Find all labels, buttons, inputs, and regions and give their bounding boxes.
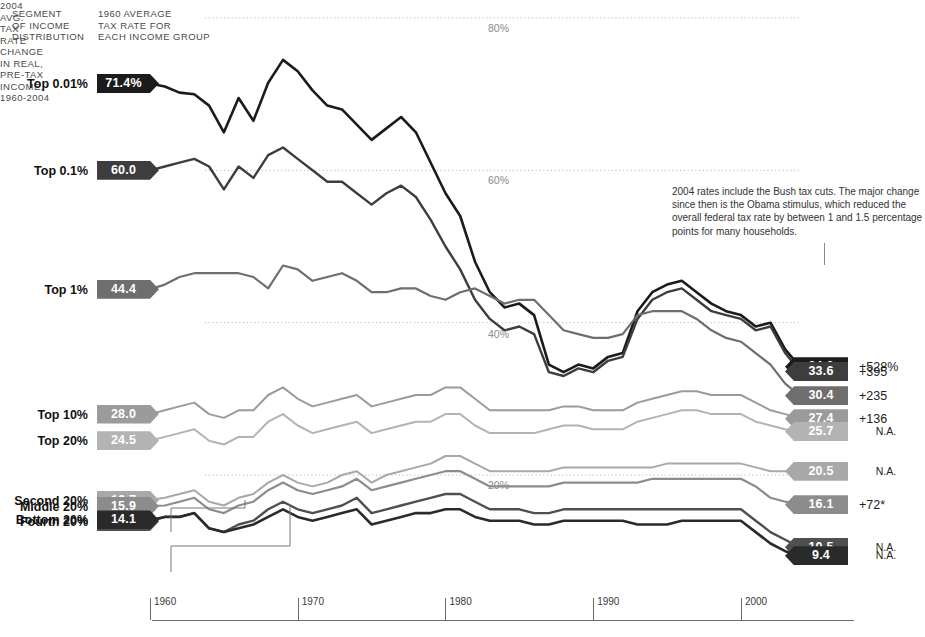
chart-plot: [0, 0, 925, 637]
series-line-middle-20: [150, 471, 800, 513]
x-tick-1960: [150, 598, 151, 620]
change-income-top-0-1: +395: [859, 365, 919, 379]
series-label-top-1: Top 1%: [0, 283, 88, 297]
badge-2004-rate-top-1: 30.4: [785, 386, 848, 405]
badge-1960-rate-top-10: 28.0: [97, 405, 159, 424]
change-income-top-1: +235: [859, 389, 919, 403]
series-label-top-20: Top 20%: [0, 434, 88, 448]
change-income-bottom-20: N.A.: [856, 549, 916, 561]
gridline-label-20: 20%: [488, 479, 509, 491]
x-tick-label-1990: 1990: [597, 596, 619, 607]
series-line-bottom-20: [150, 509, 800, 555]
series-line-group: [150, 60, 800, 556]
x-tick-label-1960: 1960: [154, 596, 176, 607]
gridline-label-40: 40%: [488, 328, 509, 340]
series-line-top-20: [150, 410, 800, 444]
series-line-second-20: [150, 456, 800, 506]
series-line-top-10: [150, 387, 800, 418]
change-income-second-20: N.A.: [856, 465, 916, 477]
x-axis-line: [152, 620, 854, 621]
gridline-label-80: 80%: [488, 22, 509, 34]
x-tick-label-1970: 1970: [302, 596, 324, 607]
series-label-top-0-01: Top 0.01%: [0, 77, 88, 91]
badge-2004-rate-top-0-1: 33.6: [785, 362, 848, 381]
x-tick-1970: [298, 598, 299, 620]
badge-1960-rate-top-20: 24.5: [97, 431, 159, 450]
series-label-middle-20: Middle 20%: [0, 500, 88, 514]
x-tick-label-2000: 2000: [745, 596, 767, 607]
gridline-group: [205, 18, 800, 475]
badge-1960-rate-top-0-01: 71.4%: [97, 74, 159, 93]
gridline-label-60: 60%: [488, 174, 509, 186]
change-income-top-20: N.A.: [856, 425, 916, 437]
series-line-top-1: [150, 266, 800, 396]
badge-2004-rate-middle-20: 16.1: [785, 495, 848, 514]
series-label-top-10: Top 10%: [0, 408, 88, 422]
badge-2004-rate-second-20: 20.5: [785, 462, 848, 481]
series-label-top-0-1: Top 0.1%: [0, 164, 88, 178]
change-income-middle-20: +72*: [859, 498, 919, 512]
change-income-top-10: +136: [859, 412, 919, 426]
x-tick-1980: [445, 598, 446, 620]
badge-1960-rate-top-1: 44.4: [97, 280, 159, 299]
x-tick-2000: [741, 598, 742, 620]
series-label-bottom-20: Bottom 20%: [0, 513, 88, 527]
badge-1960-rate-bottom-20: 14.1: [97, 510, 159, 529]
badge-2004-rate-bottom-20: 9.4: [785, 546, 848, 565]
badge-1960-rate-top-0-1: 60.0: [97, 161, 159, 180]
series-line-top-0-01: [150, 60, 800, 372]
badge-2004-rate-top-20: 25.7: [785, 422, 848, 441]
x-tick-label-1980: 1980: [449, 596, 471, 607]
x-tick-1990: [593, 598, 594, 620]
